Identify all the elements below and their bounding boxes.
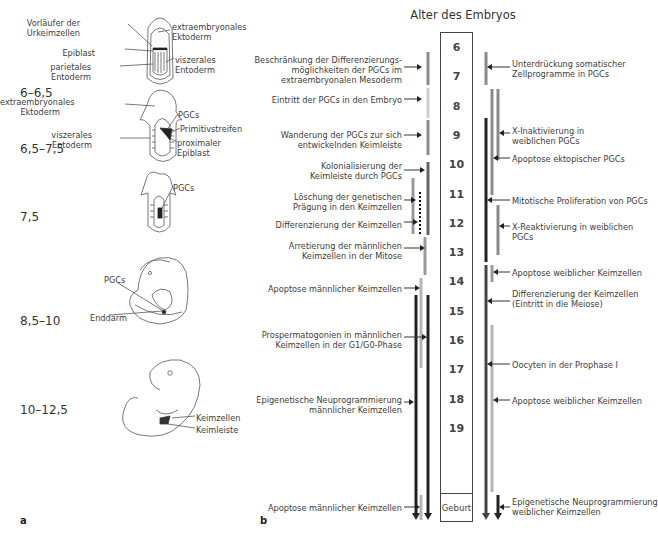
event-label-left: Kolonialisierung derKeimleiste durch PGC… [240, 161, 402, 181]
arrow-left-icon [493, 269, 498, 275]
arrow-right-icon [417, 64, 422, 70]
arrow-left-icon [499, 223, 504, 229]
arrow-down-icon [412, 513, 420, 520]
event-label-left: Löschung der genetischenPrägung in den K… [240, 192, 402, 212]
event-label-right: Apoptose ektopischer PGCs [512, 154, 625, 164]
arrow-left-icon [487, 197, 492, 203]
event-label-left: Differenzierung der Keimzellen [240, 220, 402, 230]
arrow-left-icon [499, 504, 504, 510]
arrow-right-icon [417, 96, 422, 102]
event-label-right: X-Reaktivierung in weiblichenPGCs [512, 222, 633, 242]
arrow-left-icon [499, 130, 504, 136]
arrow-right-icon [417, 132, 422, 138]
arrow-left-icon [487, 361, 492, 367]
event-label-right: Oocyten in der Prophase I [512, 360, 618, 370]
event-label-left: Epigenetische Neuprogrammierungmännliche… [240, 395, 402, 415]
arrow-left-icon [487, 64, 492, 70]
event-label-right: Unterdrückung somatischerZellprogramme i… [512, 59, 626, 79]
arrow-left-icon [487, 298, 492, 304]
arrow-right-icon [415, 285, 420, 291]
event-label-left: Prospermatogonien in männlichenKeimzelle… [240, 330, 402, 350]
arrow-down-icon [424, 513, 432, 520]
arrow-down-icon [482, 513, 490, 520]
event-label-left: Beschränkung der Differenzierungs-möglic… [240, 55, 402, 85]
arrow-down-icon [494, 513, 502, 520]
event-label-left: Eintritt der PGCs in den Embryo [240, 95, 402, 105]
arrow-right-icon [413, 219, 418, 225]
event-label-right: X-Inaktivierung inweiblichen PGCs [512, 126, 584, 146]
event-label-right: Apoptose weiblicher Keimzellen [512, 268, 642, 278]
arrow-left-icon [493, 397, 498, 403]
event-label-left: Arretierung der männlichenKeimzellen in … [240, 241, 402, 261]
event-label-left: Apoptose männlicher Keimzellen [240, 284, 402, 294]
arrow-right-icon [409, 399, 414, 405]
event-label-right: Differenzierung der Keimzellen(Eintritt … [512, 289, 638, 309]
event-label-right: Epigenetische Neuprogrammierungweibliche… [512, 497, 658, 517]
event-label-left: Apoptose männlicher Keimzellen [240, 503, 402, 513]
arrow-right-icon [420, 167, 425, 173]
arrow-right-icon [422, 334, 427, 340]
arrow-left-icon [493, 155, 498, 161]
event-label-right: Apoptose weiblicher Keimzellen [512, 396, 642, 406]
panel-letter-b: b [260, 515, 267, 526]
event-label-right: Mitotische Proliferation von PGCs [512, 196, 648, 206]
event-label-left: Wanderung der PGCs zur sichentwickelnden… [240, 130, 402, 150]
